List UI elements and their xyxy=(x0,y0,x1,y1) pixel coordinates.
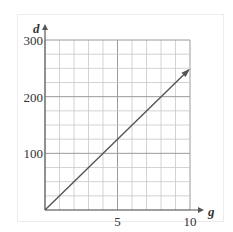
chart-grid xyxy=(45,40,190,210)
x-tick-label: 10 xyxy=(184,214,197,229)
y-tick-label: 100 xyxy=(24,146,44,161)
x-tick-label: 5 xyxy=(114,214,121,229)
chart-axes xyxy=(42,24,204,213)
line-chart: 510100200300 g d xyxy=(0,0,233,232)
y-axis-label: d xyxy=(33,21,40,36)
tick-labels: 510100200300 xyxy=(24,33,197,229)
y-tick-label: 200 xyxy=(24,90,44,105)
x-axis-label: g xyxy=(207,204,215,219)
